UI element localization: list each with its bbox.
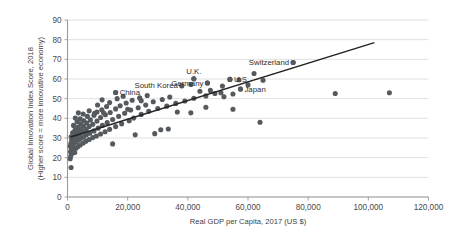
y-tick-label-60: 60	[52, 75, 62, 84]
data-point	[107, 127, 112, 132]
data-point	[188, 110, 193, 115]
data-point	[230, 107, 235, 112]
trend-line-segment	[71, 43, 375, 137]
data-point	[139, 98, 144, 103]
data-point	[92, 111, 97, 116]
y-axis-title-line2: (Higher score = more innovative economy)	[36, 36, 45, 180]
data-point	[166, 126, 171, 131]
data-point	[100, 97, 105, 102]
y-tick-label-50: 50	[52, 95, 62, 104]
data-point	[98, 132, 103, 137]
annotation-label: Germany	[171, 79, 203, 88]
data-point	[251, 71, 256, 76]
data-point	[143, 102, 148, 107]
data-point	[81, 111, 86, 116]
data-point	[124, 100, 129, 105]
x-tick-label-40000: 40,000	[175, 203, 200, 212]
y-tick-label-70: 70	[52, 55, 62, 64]
data-point	[208, 88, 213, 93]
data-point	[158, 127, 163, 132]
x-tick-label-80000: 80,000	[296, 203, 321, 212]
data-point	[257, 120, 262, 125]
data-point	[230, 91, 235, 96]
x-tick-label-60000: 60,000	[235, 203, 260, 212]
x-tick-label-120000: 120,000	[414, 203, 444, 212]
data-point	[167, 95, 172, 100]
annotation-label: U.S.	[234, 75, 249, 84]
data-point-labeled	[291, 60, 296, 65]
chart-canvas: 0102030405060708090 020,00040,00060,0008…	[0, 0, 470, 231]
x-tick-label-100000: 100,000	[354, 203, 384, 212]
data-point	[69, 165, 74, 170]
data-point	[95, 102, 100, 107]
y-tick-label-10: 10	[52, 173, 62, 182]
data-point	[113, 106, 118, 111]
data-point	[78, 116, 83, 121]
data-point	[125, 107, 130, 112]
data-point	[152, 131, 157, 136]
x-tick-label-0: 0	[65, 203, 70, 212]
data-point	[73, 115, 78, 120]
data-point	[387, 90, 392, 95]
data-point	[145, 93, 150, 98]
data-point	[87, 108, 92, 113]
data-point	[333, 91, 338, 96]
data-point	[98, 115, 103, 120]
scatter-chart: 0102030405060708090 020,00040,00060,0008…	[0, 0, 470, 231]
data-point	[101, 110, 106, 115]
data-point	[175, 109, 180, 114]
trend-line	[71, 43, 375, 137]
annotation-label: China	[120, 88, 141, 97]
data-point	[107, 100, 112, 105]
data-point	[108, 110, 113, 115]
y-tick-label-40: 40	[52, 114, 62, 123]
y-axis-title: Global Innovation Index Score, 2018 (Hig…	[26, 36, 45, 180]
x-tick-label-20000: 20,000	[115, 203, 140, 212]
data-point	[220, 84, 225, 89]
annotation-label: Switzerland	[249, 58, 289, 67]
data-points	[68, 60, 392, 170]
axis-lines	[68, 20, 429, 197]
x-axis-title: Real GDP per Capita, 2017 (US $)	[190, 217, 307, 226]
data-point	[136, 105, 141, 110]
data-point	[203, 105, 208, 110]
gridlines	[68, 20, 429, 197]
data-point	[118, 103, 123, 108]
y-tick-label-90: 90	[52, 16, 62, 25]
x-axis-tick-labels: 020,00040,00060,00080,000100,000120,000	[65, 203, 444, 212]
data-point	[116, 114, 121, 119]
y-axis-tick-labels: 0102030405060708090	[52, 16, 62, 202]
data-point-labeled	[113, 90, 118, 95]
data-point	[151, 99, 156, 104]
y-tick-label-20: 20	[52, 154, 62, 163]
data-point-labeled	[205, 80, 210, 85]
data-point	[133, 132, 138, 137]
annotation-label: U.K.	[186, 67, 201, 76]
data-point	[110, 117, 115, 122]
y-tick-label-0: 0	[57, 193, 62, 202]
data-point	[76, 110, 81, 115]
y-tick-label-80: 80	[52, 36, 62, 45]
data-point	[103, 129, 108, 134]
data-point-labeled	[238, 86, 243, 91]
data-point	[110, 141, 115, 146]
data-point	[90, 122, 95, 127]
data-point	[197, 89, 202, 94]
y-tick-label-30: 30	[52, 134, 62, 143]
axis-tickmarks	[65, 20, 429, 201]
data-point	[160, 97, 165, 102]
data-point	[130, 98, 135, 103]
data-point-labeled	[227, 77, 232, 82]
data-point	[113, 124, 118, 129]
y-axis-title-line1: Global Innovation Index Score, 2018	[26, 47, 35, 170]
annotation-label: Japan	[244, 85, 265, 94]
